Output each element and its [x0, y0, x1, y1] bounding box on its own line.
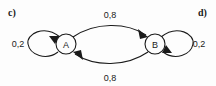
node-a: A [56, 34, 76, 54]
node-b-label: B [152, 40, 158, 50]
edge-weight-a-to-b: 0,8 [104, 10, 117, 20]
edge-a-to-b-arrowhead [138, 29, 148, 39]
edge-b-to-a [73, 50, 148, 64]
edge-b-to-a-path [75, 52, 148, 64]
edge-b-to-a-arrowhead [73, 50, 83, 60]
node-b: B [145, 34, 165, 54]
edge-weight-b-to-a: 0,8 [104, 73, 117, 83]
diagram-screenshot: c) d) A B [0, 0, 216, 86]
state-transition-diagram: c) d) A B [0, 0, 216, 86]
edge-a-to-b-path [73, 25, 146, 37]
self-loop-b [161, 31, 193, 57]
edge-a-to-b [73, 25, 148, 39]
edge-weight-b-self: 0,2 [193, 39, 206, 49]
node-a-label: A [63, 40, 69, 50]
edge-weight-a-self: 0,2 [12, 39, 25, 49]
part-label-d: d) [198, 7, 207, 19]
self-loop-a [28, 31, 60, 57]
part-label-c: c) [8, 7, 16, 19]
